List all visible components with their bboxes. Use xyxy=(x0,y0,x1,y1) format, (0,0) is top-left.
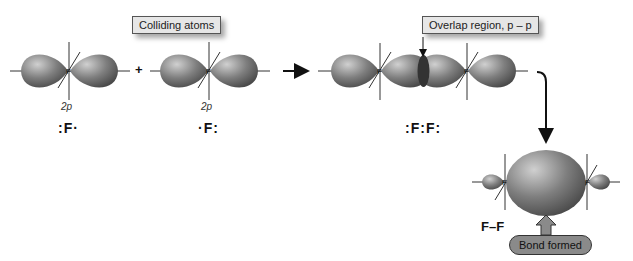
atom-2-lewis: ·F: xyxy=(198,120,219,136)
svg-text:F: F xyxy=(66,67,71,76)
atom-1-lewis: :F· xyxy=(58,120,79,136)
plus-operator: + xyxy=(135,62,143,77)
molecule-formula: F–F xyxy=(481,219,504,234)
svg-text:F: F xyxy=(585,178,590,187)
colliding-atoms-label: Colliding atoms xyxy=(132,16,221,34)
orbital-diagram: F F F F F F xyxy=(0,0,633,261)
overlap-region-label: Overlap region, p – p xyxy=(422,16,539,34)
bond-formed-label: Bond formed xyxy=(509,235,592,255)
bent-arrow xyxy=(537,72,546,140)
overlap-orbital: F F xyxy=(318,37,528,100)
svg-text:F: F xyxy=(464,67,469,76)
svg-text:F: F xyxy=(502,178,507,187)
svg-text:F: F xyxy=(377,67,382,76)
atom-1-orbital: F xyxy=(10,42,130,100)
molecule-lewis: :F:F: xyxy=(405,120,441,136)
atom-2-orbital: F xyxy=(150,42,270,100)
svg-text:F: F xyxy=(206,67,211,76)
atom-1-orbital-label: 2p xyxy=(61,101,72,112)
atom-2-orbital-label: 2p xyxy=(201,101,212,112)
